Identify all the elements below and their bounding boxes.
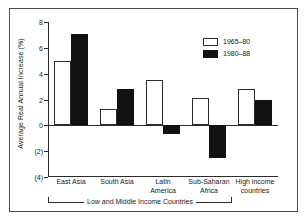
bar-group bbox=[48, 22, 94, 177]
y-axis-title-text: Average Real Annual Increase (%) bbox=[17, 38, 24, 148]
bar bbox=[238, 89, 255, 125]
x-axis-label: High incomecountries bbox=[226, 178, 284, 195]
legend-label-1980-88: 1980–88 bbox=[223, 50, 250, 57]
category-group-bracket: Low and Middle Income Countries bbox=[48, 196, 232, 208]
bar bbox=[192, 98, 209, 125]
legend-item-1965-80: 1965–80 bbox=[203, 37, 250, 46]
bar bbox=[117, 89, 134, 125]
y-tick-label: 6 bbox=[39, 44, 43, 51]
y-tick-label: 8 bbox=[39, 19, 43, 26]
bar bbox=[255, 100, 272, 126]
chart-legend: 1965–80 1980–88 bbox=[203, 37, 250, 61]
y-tick-label: 4 bbox=[39, 70, 43, 77]
legend-swatch-filled bbox=[203, 50, 218, 58]
x-axis-label-line: countries bbox=[226, 187, 284, 196]
y-tick-label: 0 bbox=[39, 122, 43, 129]
legend-label-1965-80: 1965–80 bbox=[223, 38, 250, 45]
bar bbox=[54, 61, 71, 126]
bar bbox=[146, 80, 163, 125]
chart-figure: Average Real Annual Increase (%) 86420(2… bbox=[0, 0, 307, 221]
legend-item-1980-88: 1980–88 bbox=[203, 49, 250, 58]
bar bbox=[100, 109, 117, 126]
bracket-tip-right bbox=[231, 197, 232, 203]
legend-swatch-open bbox=[203, 38, 218, 46]
x-axis-label-line: High income bbox=[226, 178, 284, 187]
bar bbox=[163, 125, 180, 134]
y-axis-title: Average Real Annual Increase (%) bbox=[13, 18, 27, 168]
bar-group bbox=[94, 22, 140, 177]
bracket-label: Low and Middle Income Countries bbox=[84, 196, 196, 208]
bar bbox=[71, 34, 88, 126]
bar-group bbox=[140, 22, 186, 177]
y-tick-label: 2 bbox=[39, 96, 43, 103]
bracket-tip-left bbox=[48, 197, 49, 203]
bar bbox=[209, 125, 226, 157]
y-tick-label: (2) bbox=[34, 148, 43, 155]
